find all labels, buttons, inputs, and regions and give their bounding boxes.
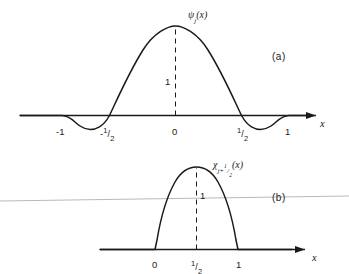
panel-tag-b: (b) — [272, 193, 286, 203]
panel-a-curve-label: ψj(x) — [188, 10, 207, 23]
panel-b-curve-label: χj+1/2(x) — [213, 160, 243, 175]
panel-b-curve-label-argument: (x) — [232, 159, 243, 170]
panel-a-height-label: 1 — [165, 77, 170, 87]
panel-tag-a: (a) — [272, 52, 286, 62]
figure-canvas — [0, 0, 349, 274]
panel-a-tick-label-zero: 0 — [172, 127, 177, 137]
panel-b — [0, 167, 349, 253]
fraction-one-half: 1/2 — [103, 127, 114, 142]
panel-b-tick-label-one: 1 — [236, 260, 241, 270]
panel-a-tick-label-minus-half: -1/2 — [100, 127, 114, 142]
panel-b-height-label: 1 — [200, 191, 205, 201]
panel-b-axis-name: x — [312, 253, 317, 264]
panel-a-curve-label-subscript: j — [194, 17, 196, 25]
panel-a-tick-label-one: 1 — [285, 127, 290, 137]
panel-a-tick-label-minus-one: -1 — [56, 127, 64, 137]
figure-root: ψj(x) 1 (a) x -1 -1/2 0 1/2 1 χj+1/2(x) … — [0, 0, 349, 274]
panel-a-axis-name: x — [320, 119, 325, 130]
panel-b-tick-label-half: 1/2 — [191, 260, 202, 274]
panel-a-curve-label-argument: (x) — [196, 9, 207, 20]
panel-b-tick-label-zero: 0 — [152, 260, 157, 270]
panel-a-tick-label-half: 1/2 — [237, 127, 248, 142]
fraction-one-half: 1/2 — [237, 127, 248, 142]
panel-b-curve-label-subscript: j+1/2 — [217, 167, 232, 175]
fraction-one-half: 1/2 — [191, 260, 202, 274]
scan-artifact-line — [0, 196, 349, 201]
panel-b-x-axis-arrowhead — [295, 246, 305, 253]
